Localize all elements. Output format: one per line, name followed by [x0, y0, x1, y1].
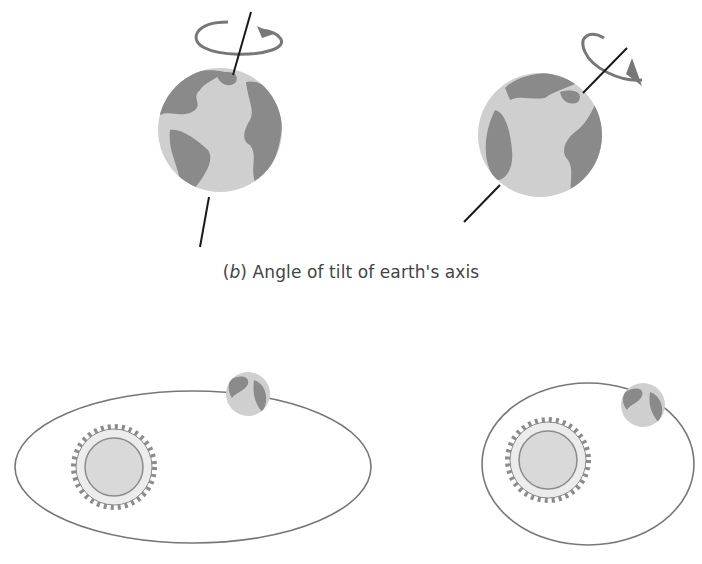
near-circular-orbit-diagram [482, 383, 694, 545]
earth-orbit-figure [0, 0, 702, 564]
sun-icon [74, 427, 154, 507]
elongated-orbit-diagram [15, 372, 371, 543]
earth-icon [226, 372, 270, 416]
panel-b-caption: (b) Angle of tilt of earth's axis [0, 262, 702, 282]
earth-large-tilt-globe [464, 34, 642, 222]
earth-icon [621, 383, 665, 427]
rotation-arrow-icon [196, 22, 281, 54]
earth-small-tilt-globe [158, 12, 282, 247]
caption-text: Angle of tilt of earth's axis [247, 262, 479, 282]
caption-letter: b [229, 262, 240, 282]
sun-icon [508, 420, 588, 500]
